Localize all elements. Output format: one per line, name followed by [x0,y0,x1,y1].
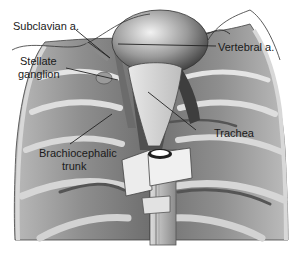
label-trachea: Trachea [214,127,254,139]
label-brachiocephalic-trunk-line2: trunk [62,160,86,172]
label-stellate-ganglion-line2: ganglion [18,68,60,80]
label-stellate-ganglion-line1: Stellate [20,55,57,67]
label-subclavian-artery: Subclavian a. [13,20,79,32]
label-vertebral-artery: Vertebral a. [218,41,274,53]
label-brachiocephalic-trunk-line1: Brachiocephalic [39,147,117,159]
anatomy-diagram: Subclavian a. Stellate ganglion Vertebra… [0,0,301,253]
anatomy-illustration [0,0,301,253]
